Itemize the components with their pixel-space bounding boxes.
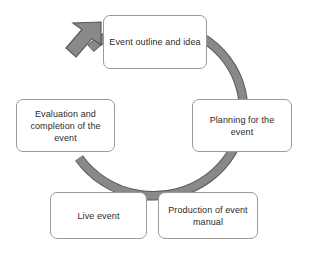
node-label: Event outline and idea: [104, 36, 205, 48]
node-live-event[interactable]: Live event: [50, 192, 147, 239]
node-label: Production of event manual: [159, 204, 257, 228]
node-production-of-event-manual[interactable]: Production of event manual: [158, 192, 258, 239]
node-label: Evaluation and completion of the event: [17, 108, 114, 144]
node-evaluation-and-completion-of-the-event[interactable]: Evaluation and completion of the event: [16, 99, 115, 152]
node-planning-for-the-event[interactable]: Planning for the event: [192, 99, 292, 152]
node-event-outline-and-idea[interactable]: Event outline and idea: [103, 15, 207, 69]
node-label: Planning for the event: [193, 114, 291, 138]
cycle-arrowhead: [66, 22, 101, 57]
node-label: Live event: [72, 210, 124, 222]
cycle-diagram: Event outline and idea Planning for the …: [0, 0, 310, 255]
